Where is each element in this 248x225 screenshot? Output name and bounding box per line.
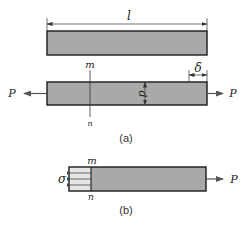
length-label: l bbox=[127, 9, 131, 23]
loaded-bar bbox=[47, 82, 207, 105]
free-body-force-label: P bbox=[229, 173, 238, 186]
loaded-bar-group: δ d m n P P bbox=[7, 59, 237, 128]
undeformed-bar bbox=[47, 31, 207, 55]
force-label-left: P bbox=[7, 87, 16, 100]
free-body-bar bbox=[91, 167, 206, 191]
depth-label: d bbox=[136, 90, 149, 97]
elongation-label: δ bbox=[194, 61, 201, 75]
diagram-canvas: l δ d m n P P (a) bbox=[0, 0, 248, 225]
undeformed-bar-group: l bbox=[47, 9, 207, 55]
force-label-right: P bbox=[228, 87, 237, 100]
section-label-n: n bbox=[87, 119, 92, 128]
free-body-label-m: m bbox=[87, 155, 96, 166]
free-body-label-n: n bbox=[88, 192, 94, 202]
stress-label: σ bbox=[58, 172, 67, 186]
caption-a: (a) bbox=[119, 132, 132, 144]
section-label-m: m bbox=[85, 59, 94, 70]
free-body-group: σ m n P bbox=[58, 155, 238, 202]
caption-b: (b) bbox=[119, 204, 132, 216]
